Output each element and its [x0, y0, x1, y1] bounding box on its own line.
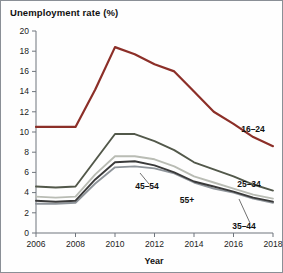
y-tick-label: 12 — [20, 107, 30, 117]
x-axis-title: Year — [144, 256, 164, 266]
y-tick-label: 20 — [20, 26, 30, 36]
x-tick-label: 2006 — [27, 239, 46, 249]
x-tick-label: 2014 — [185, 239, 204, 249]
y-tick-label: 16 — [20, 66, 30, 76]
leader-line-35-44 — [239, 199, 250, 223]
series-label-35-44: 35–44 — [232, 221, 256, 231]
y-axis: 02468101214161820 — [20, 26, 36, 238]
x-tick-label: 2018 — [264, 239, 283, 249]
y-tick-label: 2 — [24, 208, 29, 218]
y-tick-label: 10 — [20, 127, 30, 137]
y-tick-label: 6 — [24, 167, 29, 177]
series-label-45-54: 45–54 — [135, 181, 159, 191]
series-line-16-24 — [36, 47, 273, 146]
line-chart-svg: 02468101214161820 2006200820102012201420… — [1, 1, 283, 273]
series-label-16-24: 16–24 — [241, 124, 265, 134]
series-label-25-34: 25–34 — [237, 179, 261, 189]
y-tick-label: 18 — [20, 46, 30, 56]
x-tick-label: 2012 — [145, 239, 164, 249]
y-tick-label: 14 — [20, 86, 30, 96]
y-tick-label: 8 — [24, 147, 29, 157]
series-label-55+: 55+ — [180, 195, 194, 205]
y-tick-label: 0 — [24, 228, 29, 238]
chart-figure: Unemployment rate (%) 02468101214161820 … — [0, 0, 283, 273]
y-tick-label: 4 — [24, 187, 29, 197]
x-tick-label: 2008 — [66, 239, 85, 249]
x-tick-label: 2010 — [106, 239, 125, 249]
x-tick-label: 2016 — [224, 239, 243, 249]
x-axis: 2006200820102012201420162018 — [27, 233, 283, 249]
plot-area: 02468101214161820 2006200820102012201420… — [1, 1, 283, 273]
